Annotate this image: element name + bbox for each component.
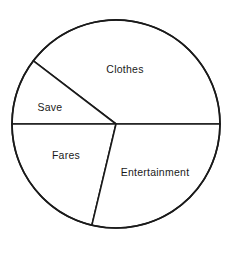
pie-slice-label-save: Save — [38, 102, 63, 113]
pie-chart: Clothes Save Fares Entertainment — [0, 0, 239, 253]
pie-slice-label-fares: Fares — [52, 150, 80, 161]
pie-slice-label-entertainment: Entertainment — [121, 167, 190, 178]
pie-chart-canvas — [0, 0, 239, 253]
pie-slice-group — [12, 20, 220, 228]
pie-slice-label-clothes: Clothes — [106, 64, 143, 75]
